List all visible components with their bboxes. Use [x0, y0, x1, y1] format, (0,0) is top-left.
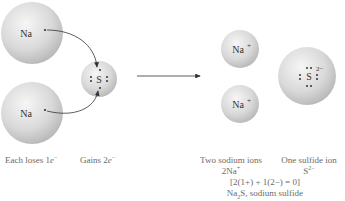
sulfide-symbol: S — [306, 71, 312, 82]
sulfur-symbol: S — [96, 74, 102, 85]
sulfide-ion-caption: One sulfide ion S2− — [273, 155, 345, 177]
sodium-symbol: Na — [20, 28, 32, 39]
sulfur-atom: S — [81, 61, 117, 97]
sodium-ion-symbol: Na — [232, 99, 244, 110]
sulfur-atom-caption: Gains 2e− — [80, 155, 115, 166]
sodium-atom-1: Na — [1, 2, 63, 64]
sodium-atom-caption: Each loses 1e− — [5, 155, 57, 166]
sodium-ion-1: Na + — [221, 30, 259, 68]
sodium-ion-charge: + — [247, 42, 251, 50]
sodium-symbol: Na — [20, 108, 32, 119]
sulfide-charge: 2− — [316, 65, 324, 73]
sodium-ion-charge: + — [247, 97, 251, 105]
compound-name: Na2S, sodium sulfide — [200, 188, 330, 199]
charge-balance: [2(1+) + 1(2−) = 0] — [200, 177, 330, 188]
valence-electron-dot — [44, 109, 46, 111]
sodium-ions-caption: Two sodium ions 2Na+ — [191, 155, 271, 177]
sodium-ion-2: Na + — [221, 85, 259, 123]
sodium-atom-2: Na — [1, 82, 63, 144]
sulfide-ion: S 2− — [278, 47, 336, 105]
sodium-ion-symbol: Na — [232, 44, 244, 55]
valence-electron-dot — [44, 29, 46, 31]
